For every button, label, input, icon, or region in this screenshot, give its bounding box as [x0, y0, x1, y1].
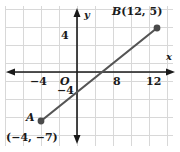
y-tick-label-neg4: −4 — [57, 85, 74, 96]
y-tick-label-4: 4 — [61, 30, 69, 41]
point-b-label: B(12, 5) — [112, 6, 162, 17]
point-a-marker — [38, 118, 45, 125]
coordinate-plane-figure: −4 O 8 12 4 −4 x y B(12, 5) A (−4, −7) — [0, 0, 180, 152]
point-b-marker — [154, 25, 161, 32]
y-axis-label: y — [84, 10, 90, 20]
point-a-label: A — [26, 112, 35, 123]
x-axis-label: x — [166, 52, 172, 62]
point-b-name: B — [112, 5, 121, 18]
x-tick-label-12: 12 — [146, 76, 161, 87]
point-a-coord-label: (−4, −7) — [6, 132, 58, 143]
x-tick-label-neg4: −4 — [30, 76, 47, 87]
point-b-coord: (12, 5) — [121, 5, 162, 18]
x-tick-label-8: 8 — [113, 76, 121, 87]
